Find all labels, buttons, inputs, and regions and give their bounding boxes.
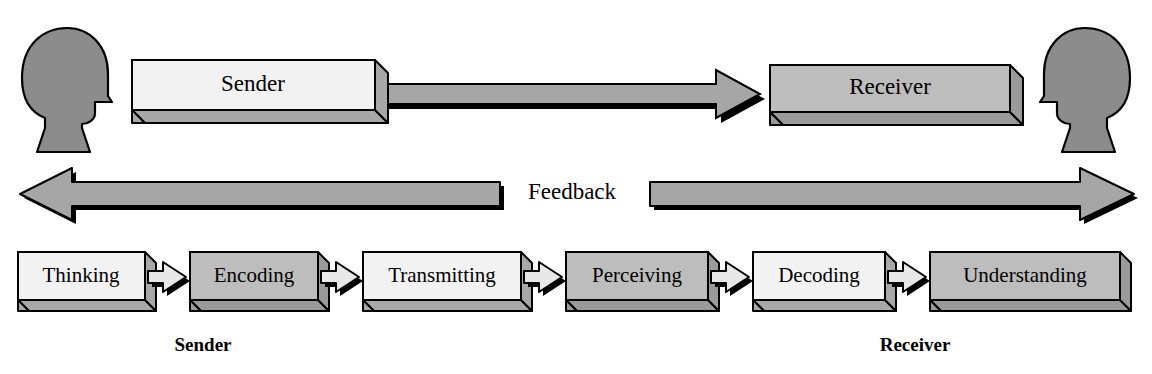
process-step-understanding: Understanding <box>930 252 1131 311</box>
sender-head-icon <box>22 28 112 152</box>
sender-box: Sender <box>132 60 388 123</box>
process-step-label: Transmitting <box>388 263 496 287</box>
process-step-label: Perceiving <box>592 263 682 287</box>
feedback-label: Feedback <box>528 179 617 204</box>
receiver-box-label: Receiver <box>849 74 931 99</box>
process-step-label: Decoding <box>778 263 860 287</box>
role-label-receiver: Receiver <box>880 334 951 355</box>
process-step-encoding: Encoding <box>190 252 329 311</box>
message-arrow <box>378 70 765 123</box>
receiver-box: Receiver <box>770 65 1023 125</box>
process-step-decoding: Decoding <box>753 252 896 311</box>
process-step-thinking: Thinking <box>18 252 156 311</box>
sender-box-label: Sender <box>221 71 285 96</box>
process-step-label: Encoding <box>214 263 295 287</box>
process-step-transmitting: Transmitting <box>363 252 532 311</box>
role-label-sender: Sender <box>175 334 233 355</box>
process-step-perceiving: Perceiving <box>566 252 719 311</box>
process-step-label: Thinking <box>43 263 120 287</box>
feedback-arrow-right <box>650 168 1138 224</box>
feedback-arrow-left <box>20 168 504 224</box>
communication-process-diagram: Sender Receiver Feedback <box>0 0 1152 374</box>
receiver-head-icon <box>1040 28 1130 152</box>
process-step-label: Understanding <box>963 263 1087 287</box>
diagram-canvas: Sender Receiver Feedback <box>0 0 1152 374</box>
